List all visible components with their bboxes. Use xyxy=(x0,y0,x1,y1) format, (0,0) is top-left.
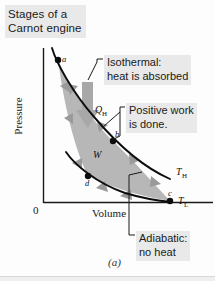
temp-cold-label-sub: L xyxy=(184,201,188,209)
point-d-label: d xyxy=(85,178,90,188)
callout-adiabatic: Adiabatic: no heat xyxy=(136,231,190,261)
x-axis-label: Volume xyxy=(92,207,126,219)
leader-line-isothermal xyxy=(88,59,103,80)
point-a-label: a xyxy=(62,54,66,64)
point-c xyxy=(167,198,173,204)
figure-title: Stages of a Carnot engine xyxy=(5,5,86,38)
heat-input-label-sub: H xyxy=(102,110,107,118)
temp-hot-label-sub: H xyxy=(182,172,187,180)
y-axis-label: Pressure xyxy=(12,86,24,146)
page-bottom-edge xyxy=(0,276,215,281)
callout-isothermal: Isothermal: heat is absorbed xyxy=(104,55,191,85)
point-a xyxy=(55,57,61,63)
axis-origin-label: 0 xyxy=(33,204,39,216)
panel-label: (a) xyxy=(108,256,121,268)
callout-positive-work: Positive work is done. xyxy=(126,103,197,133)
point-c-label: c xyxy=(168,188,172,198)
